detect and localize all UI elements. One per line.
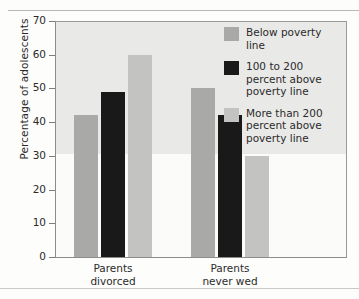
y-tick-label: 40 <box>6 115 46 127</box>
y-tick-label: 20 <box>6 183 46 195</box>
y-tick-mark <box>49 88 55 89</box>
legend: Below povertyline100 to 200percent above… <box>224 26 346 153</box>
x-category-label-line: never wed <box>175 275 285 288</box>
y-axis-line <box>55 21 56 258</box>
y-tick-mark <box>49 190 55 191</box>
page-bottom-rule <box>0 288 359 289</box>
legend-swatch-icon <box>224 27 239 41</box>
y-tick-label: 70 <box>6 14 46 26</box>
x-category-label-line: Parents <box>58 262 168 275</box>
legend-swatch-icon <box>224 61 239 75</box>
x-category-label: Parentsnever wed <box>175 262 285 288</box>
y-tick-label: 60 <box>6 48 46 60</box>
bar <box>191 88 215 257</box>
legend-label: More than 200percent abovepoverty line <box>246 107 323 145</box>
y-tick-label: 30 <box>6 149 46 161</box>
y-tick-label: 0 <box>6 250 46 262</box>
y-tick-mark <box>49 55 55 56</box>
legend-label-line: line <box>246 39 321 52</box>
legend-label-line: percent above <box>246 119 323 132</box>
legend-label-line: Below poverty <box>246 26 321 39</box>
legend-label-line: 100 to 200 <box>246 60 322 73</box>
legend-label-line: percent above <box>246 73 322 86</box>
legend-label-line: poverty line <box>246 132 323 145</box>
y-tick-label: 50 <box>6 81 46 93</box>
legend-item: Below povertyline <box>224 26 346 51</box>
legend-item: More than 200percent abovepoverty line <box>224 107 346 145</box>
y-tick-mark <box>49 156 55 157</box>
x-category-label: Parentsdivorced <box>58 262 168 288</box>
bar <box>74 115 98 257</box>
legend-label-line: poverty line <box>246 85 322 98</box>
figure-page: Percentage of adolescents 01020304050607… <box>0 0 359 299</box>
legend-label-line: More than 200 <box>246 107 323 120</box>
y-tick-mark <box>49 21 55 22</box>
x-category-label-line: Parents <box>175 262 285 275</box>
y-tick-label: 10 <box>6 216 46 228</box>
y-tick-mark <box>49 223 55 224</box>
y-tick-mark <box>49 122 55 123</box>
bar <box>245 156 269 257</box>
y-tick-mark <box>49 257 55 258</box>
legend-swatch-icon <box>224 108 239 122</box>
legend-label: 100 to 200percent abovepoverty line <box>246 60 322 98</box>
legend-item: 100 to 200percent abovepoverty line <box>224 60 346 98</box>
bar <box>128 55 152 257</box>
legend-label: Below povertyline <box>246 26 321 51</box>
x-axis-line <box>55 257 347 258</box>
bar <box>101 92 125 257</box>
x-category-label-line: divorced <box>58 275 168 288</box>
page-top-rule <box>8 10 359 11</box>
